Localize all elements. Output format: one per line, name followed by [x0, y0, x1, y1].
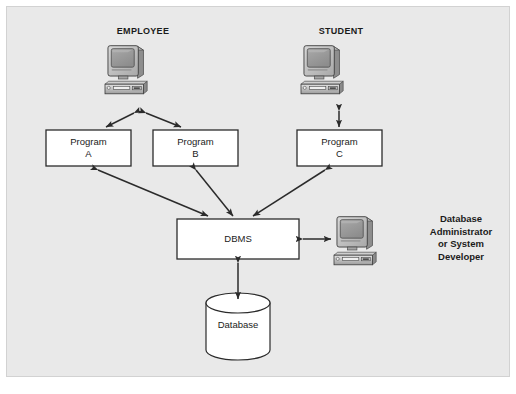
connector-employee-program-a: [106, 113, 134, 127]
program-c-label: Program C: [297, 136, 382, 160]
student-computer-icon: [301, 46, 343, 94]
connector-program-b-dbms: [196, 170, 233, 216]
diagram-root: EMPLOYEE STUDENT Program A Program B Pro…: [0, 0, 516, 394]
diagram-canvas: [0, 0, 516, 394]
database-administrator-label: Database Administrator or System Develop…: [413, 213, 509, 263]
program-a-label: Program A: [46, 136, 131, 160]
program-b-label: Program B: [153, 136, 238, 160]
connector-employee-program-b: [146, 113, 181, 127]
employee-computer-icon: [105, 46, 147, 94]
connector-program-c-dbms: [253, 170, 325, 216]
database-label: Database: [206, 319, 270, 331]
employee-label: EMPLOYEE: [103, 26, 183, 36]
admin-computer-icon: [334, 217, 376, 265]
dbms-label: DBMS: [177, 233, 299, 245]
connector-program-a-dbms: [98, 170, 208, 216]
student-label: STUDENT: [301, 26, 381, 36]
